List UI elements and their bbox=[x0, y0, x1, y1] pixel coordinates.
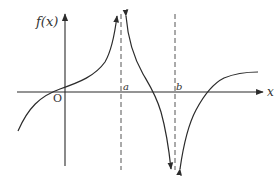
curve-branch-left bbox=[18, 16, 117, 131]
asymptote-a-label: a bbox=[123, 82, 129, 92]
function-graph: f(x) O x a b bbox=[0, 0, 278, 177]
y-axis-label: f(x) bbox=[36, 15, 58, 28]
x-axis-label: x bbox=[267, 86, 274, 98]
origin-label: O bbox=[53, 93, 62, 104]
curve-branch-right bbox=[180, 72, 258, 169]
asymptote-b-label: b bbox=[176, 82, 182, 92]
